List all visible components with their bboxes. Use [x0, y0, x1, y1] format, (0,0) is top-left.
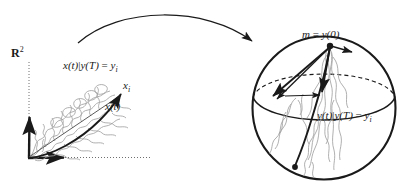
right-cond-eq: =	[353, 109, 365, 121]
left-cond-fn: x(t)	[63, 59, 78, 71]
left-cond-cond: y(T)	[80, 59, 98, 71]
sphere-start-fn: y(0)	[322, 28, 340, 40]
right-cond-target-sub: i	[369, 115, 371, 124]
left-endpoint-label: xi	[123, 80, 130, 94]
connector-arrow	[78, 15, 252, 43]
left-cond-target-sub: i	[115, 65, 117, 74]
left-drift-text: x(t)	[105, 100, 120, 112]
space-label-base: R	[11, 46, 20, 60]
sphere-outline	[253, 37, 396, 180]
figure-root: R2 x(t)|y(T) = yi xi x(t) m = y(0) y(t)|…	[0, 0, 413, 187]
left-endpoint-sub: i	[128, 85, 130, 94]
sphere-start-eq: =	[310, 28, 322, 40]
sphere-start-base: m	[302, 28, 310, 40]
sphere-start-label: m = y(0)	[302, 29, 339, 40]
equator-chord-arrow	[285, 95, 320, 96]
space-label-exponent: 2	[20, 45, 24, 54]
right-cond-cond: y(T)	[334, 109, 352, 121]
left-drift-label: x(t)	[105, 101, 120, 112]
sphere-group	[253, 37, 396, 180]
tangent-arrow-right	[331, 46, 352, 52]
figure-canvas	[0, 0, 413, 187]
left-cond-eq: =	[99, 59, 111, 71]
space-label: R2	[11, 46, 24, 59]
sphere-conditional-path-label: y(t)|y(T) = yi	[317, 110, 372, 124]
right-cond-fn: y(t)	[317, 109, 332, 121]
vertical-axis-arrow	[29, 117, 30, 158]
sphere-endpoint-dot	[292, 164, 298, 170]
left-conditional-path-label: x(t)|y(T) = yi	[63, 60, 118, 74]
